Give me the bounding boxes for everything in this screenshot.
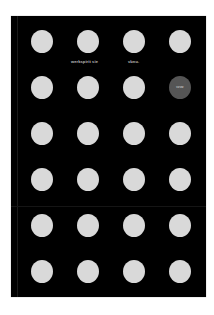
dot	[123, 214, 145, 237]
highlight-dot-label: vzvw	[176, 85, 183, 89]
dot	[123, 76, 145, 99]
dot	[77, 30, 99, 53]
dot	[31, 260, 53, 283]
panel-seam	[11, 206, 206, 207]
dot	[169, 260, 191, 283]
dot	[169, 30, 191, 53]
dot	[31, 168, 53, 191]
cover-panel: werkspirit sie vbnu. vzvw	[11, 16, 206, 297]
highlight-dot: vzvw	[169, 76, 191, 99]
dot	[123, 122, 145, 145]
dot	[77, 260, 99, 283]
dot	[169, 214, 191, 237]
dot	[31, 214, 53, 237]
dot	[169, 168, 191, 191]
dot	[31, 76, 53, 99]
dot	[123, 260, 145, 283]
spine-line	[17, 16, 18, 297]
caption-left: werkspirit sie	[71, 59, 98, 64]
dot	[77, 76, 99, 99]
dot	[169, 122, 191, 145]
dot	[77, 168, 99, 191]
dot	[31, 30, 53, 53]
dot	[77, 122, 99, 145]
dot	[77, 214, 99, 237]
dot	[31, 122, 53, 145]
dot	[123, 30, 145, 53]
caption-right: vbnu.	[128, 59, 139, 64]
dot	[123, 168, 145, 191]
